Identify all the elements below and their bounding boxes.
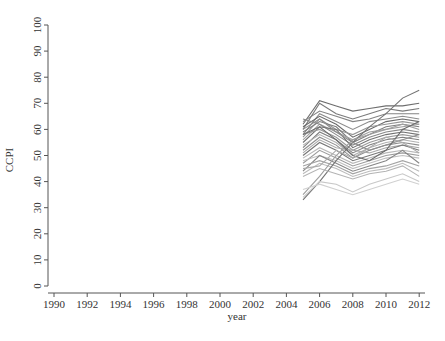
y-tick-label: 30	[31, 202, 43, 214]
x-tick-label: 2012	[408, 298, 430, 310]
x-tick-label: 2000	[209, 298, 232, 310]
x-tick-label: 1990	[43, 298, 66, 310]
x-tick-label: 1994	[109, 298, 132, 310]
x-axis: 1990199219941996199820002002200420062008…	[43, 293, 430, 310]
x-tick-label: 2010	[375, 298, 398, 310]
series-line-s21	[303, 161, 419, 174]
y-tick-label: 80	[31, 71, 43, 83]
series-line-s27	[303, 166, 419, 179]
series-line-s25	[303, 174, 419, 198]
series-lines	[303, 90, 419, 200]
y-axis-title: CCPI	[3, 147, 15, 172]
y-tick-label: 0	[31, 283, 43, 289]
y-tick-label: 60	[31, 123, 43, 135]
y-axis: 0102030405060708090100	[31, 16, 48, 289]
x-tick-label: 1998	[176, 298, 199, 310]
y-tick-label: 40	[31, 176, 43, 188]
x-tick-label: 1992	[76, 298, 98, 310]
x-tick-label: 2008	[342, 298, 365, 310]
y-tick-label: 20	[31, 228, 43, 240]
x-tick-label: 2006	[309, 298, 332, 310]
y-tick-label: 70	[31, 97, 43, 109]
x-tick-label: 2002	[242, 298, 264, 310]
x-tick-label: 1996	[143, 298, 166, 310]
line-chart: 0102030405060708090100 19901992199419961…	[0, 0, 445, 341]
y-tick-label: 50	[31, 150, 43, 162]
y-tick-label: 10	[31, 254, 43, 266]
y-tick-label: 90	[31, 45, 43, 57]
x-tick-label: 2004	[275, 298, 298, 310]
x-axis-title: year	[228, 310, 247, 322]
y-tick-label: 100	[31, 16, 43, 33]
